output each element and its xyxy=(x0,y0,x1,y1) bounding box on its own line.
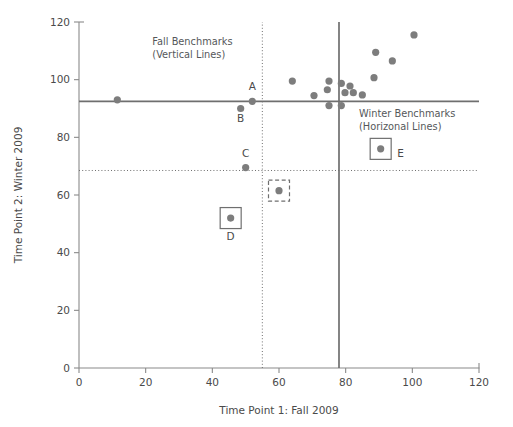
y-tick-label: 40 xyxy=(57,246,70,258)
data-point xyxy=(275,187,282,194)
point-label-a: A xyxy=(249,80,257,92)
data-point xyxy=(341,89,348,96)
x-axis-title: Time Point 1: Fall 2009 xyxy=(218,404,338,416)
y-tick-label: 0 xyxy=(63,362,70,374)
point-label-c: C xyxy=(242,147,249,159)
x-tick-label: 0 xyxy=(76,376,83,388)
x-tick-label: 60 xyxy=(272,376,285,388)
x-tick-label: 40 xyxy=(206,376,219,388)
data-point xyxy=(289,78,296,85)
data-point xyxy=(338,80,345,87)
x-tick-label: 120 xyxy=(469,376,489,388)
x-tick-label: 80 xyxy=(339,376,352,388)
data-point xyxy=(324,86,331,93)
fall-benchmarks-note-line2: (Vertical Lines) xyxy=(152,49,225,60)
y-tick-label: 100 xyxy=(50,73,70,85)
y-tick-label: 60 xyxy=(57,189,70,201)
data-point xyxy=(310,92,317,99)
y-axis-title: Time Point 2: Winter 2009 xyxy=(12,127,24,265)
point-label-b: B xyxy=(237,112,244,124)
data-point xyxy=(350,89,357,96)
x-tick-label: 20 xyxy=(139,376,152,388)
y-tick-label: 120 xyxy=(50,16,70,28)
data-point xyxy=(325,102,332,109)
winter-benchmarks-note-line1: Winter Benchmarks xyxy=(359,108,455,119)
data-point-e xyxy=(377,145,384,152)
data-point xyxy=(370,74,377,81)
data-point xyxy=(372,49,379,56)
data-point xyxy=(389,57,396,64)
point-label-d: D xyxy=(227,230,235,242)
point-label-e: E xyxy=(397,147,404,159)
x-tick-label: 100 xyxy=(402,376,422,388)
winter-benchmarks-note-line2: (Horizonal Lines) xyxy=(359,121,441,132)
data-point xyxy=(325,78,332,85)
data-point xyxy=(359,91,366,98)
data-point-d xyxy=(227,214,234,221)
fall-benchmarks-note-line1: Fall Benchmarks xyxy=(152,36,232,47)
y-tick-label: 20 xyxy=(57,304,70,316)
y-tick-label: 80 xyxy=(57,131,70,143)
data-point xyxy=(338,102,345,109)
data-point xyxy=(346,82,353,89)
data-point xyxy=(410,31,417,38)
data-point xyxy=(114,96,121,103)
data-point-a xyxy=(249,98,256,105)
data-point-c xyxy=(242,164,249,171)
scatter-chart: 020406080100120020406080100120Fall Bench… xyxy=(0,0,513,427)
chart-canvas: 020406080100120020406080100120Fall Bench… xyxy=(0,0,513,427)
